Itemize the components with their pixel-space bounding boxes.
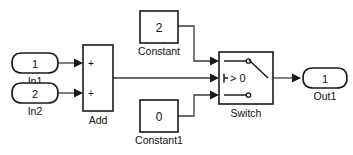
add-sign-bottom: + [88,88,94,99]
switch-label: Switch [231,107,262,119]
wire-constant-to-switch [178,26,219,66]
block-in1[interactable]: 1 In1 [12,53,58,87]
constant1-label: Constant1 [135,134,183,146]
in1-port-number: 1 [32,58,38,70]
wire-constant1-to-switch [178,91,219,117]
in2-label: In2 [28,105,43,117]
wire-switch-to-out1 [273,74,301,83]
wire-in2-to-add [58,89,83,98]
add-label: Add [89,114,108,126]
out1-label: Out1 [314,90,337,102]
block-in2[interactable]: 2 In2 [12,83,58,117]
constant-value: 2 [156,21,163,35]
diagram-svg: 1 In1 2 In2 + + Add 2 Constant 0 Constan… [0,0,353,155]
block-diagram-canvas: 1 In1 2 In2 + + Add 2 Constant 0 Constan… [0,0,353,155]
constant-label: Constant [138,45,180,57]
block-constant1[interactable]: 0 Constant1 [135,100,183,146]
block-add[interactable]: + + Add [83,45,113,126]
switch-criteria: > 0 [230,72,246,84]
wire-in1-to-add [58,59,83,68]
in2-port-number: 2 [32,88,38,100]
block-out1[interactable]: 1 Out1 [303,68,347,102]
out1-port-number: 1 [322,73,328,85]
block-constant[interactable]: 2 Constant [138,11,180,57]
add-sign-top: + [88,58,94,69]
block-switch[interactable]: > 0 Switch [219,52,273,119]
wire-add-to-switch [113,74,219,83]
constant1-value: 0 [156,110,163,124]
